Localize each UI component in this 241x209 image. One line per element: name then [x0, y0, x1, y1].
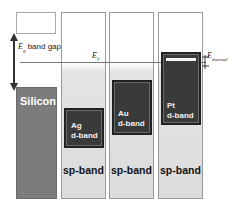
fermi-level-label: EF [92, 51, 100, 62]
thermal-energy-label: Ethermal [207, 51, 227, 62]
pt-sp-band-label: sp-band [160, 164, 201, 176]
pt-d-band: Pt d-band [161, 52, 201, 125]
au-sp-band-label: sp-band [111, 164, 152, 176]
ag-d-band: Ag d-band [64, 108, 104, 148]
thermal-subscript: thermal [212, 57, 228, 62]
ag-sp-band-label: sp-band [63, 164, 104, 176]
pt-d-band-text: d-band [167, 111, 194, 121]
band-gap-label: Eg band gap [18, 42, 61, 53]
pt-name: Pt [167, 101, 194, 111]
ag-name: Ag [71, 121, 98, 131]
au-name: Au [118, 109, 145, 119]
band-gap-text: band gap [28, 42, 61, 51]
au-d-band-label: Au d-band [118, 109, 145, 129]
ag-d-band-text: d-band [71, 131, 98, 141]
au-d-band-text: d-band [118, 119, 145, 129]
au-d-band: Au d-band [112, 80, 152, 135]
silicon-conduction-band-box [16, 12, 56, 34]
pt-d-band-top-edge [166, 58, 196, 61]
band-gap-subscript: g [23, 48, 26, 53]
pt-d-band-label: Pt d-band [167, 101, 194, 121]
fermi-subscript: F [97, 57, 100, 62]
silicon-label: Silicon [20, 95, 56, 107]
silicon-valence-band: Silicon [16, 87, 57, 199]
ag-d-band-label: Ag d-band [71, 121, 98, 141]
